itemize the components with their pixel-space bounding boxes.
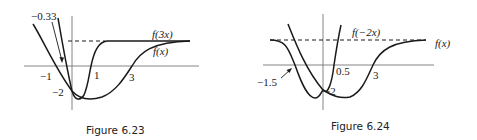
figure-caption: Figure 6.23 <box>86 124 145 136</box>
figures-canvas: −0.33 −1 1 3 −2 f(3x) f(x) Figure 6.23 −… <box>0 0 477 140</box>
curve-fneg2x <box>288 24 341 91</box>
label-fx: f(x) <box>153 45 169 58</box>
label-neg1: −1 <box>40 70 52 82</box>
figure-caption: Figure 6.24 <box>331 120 390 132</box>
label-neg15: −1.5 <box>257 76 277 88</box>
figure-6-24: −1.5 0.5 3 −2 f(−2x) f(x) Figure 6.24 <box>257 14 451 132</box>
label-neg033: −0.33 <box>31 10 57 22</box>
arrow-neg033 <box>52 22 62 61</box>
figure-6-23: −0.33 −1 1 3 −2 f(3x) f(x) Figure 6.23 <box>24 10 199 136</box>
label-neg2: −2 <box>52 86 64 98</box>
arrowhead-icon <box>60 57 65 63</box>
label-3: 3 <box>373 69 379 81</box>
label-fx: f(x) <box>435 37 451 50</box>
label-05: 0.5 <box>336 65 350 77</box>
label-1: 1 <box>94 69 100 81</box>
label-f3x: f(3x) <box>152 28 173 41</box>
label-fneg2x: f(−2x) <box>352 26 381 39</box>
label-3: 3 <box>129 71 135 83</box>
label-neg2: −2 <box>324 85 336 97</box>
